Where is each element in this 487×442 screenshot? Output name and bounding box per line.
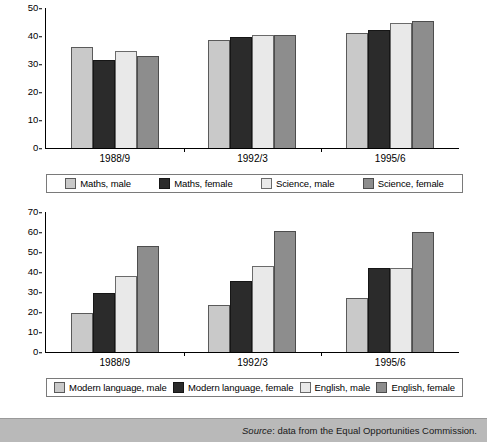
legend-label: Science, male (276, 179, 334, 189)
legend-label: English, male (315, 383, 371, 393)
y-tick-label: 0 (33, 143, 38, 153)
y-tick-label: 30 (28, 59, 38, 69)
figure-page: 50403020100 1988/91992/31995/6 Maths, ma… (0, 0, 487, 442)
y-axis-top: 50403020100 (16, 8, 42, 148)
y-tick-label: 60 (28, 227, 38, 237)
bar-group (46, 8, 184, 148)
source-body: data from the Equal Opportunities Commis… (277, 425, 477, 436)
bar (252, 35, 274, 148)
y-tick-label: 50 (28, 3, 38, 13)
bar (71, 47, 93, 148)
legend-label: Science, female (378, 179, 444, 189)
bar (346, 33, 368, 148)
legend-label: English, female (391, 383, 454, 393)
bar (208, 305, 230, 352)
legend-swatch-icon (54, 382, 65, 393)
bar (252, 266, 274, 352)
bar (137, 56, 159, 148)
legend-swatch-icon (65, 178, 76, 189)
y-tick-label: 20 (28, 307, 38, 317)
x-axis-label: 1992/3 (237, 358, 268, 368)
x-axis-labels-top: 1988/91992/31995/6 (46, 154, 459, 170)
x-axis-tick (321, 148, 322, 152)
bar (208, 40, 230, 148)
y-tick-label: 70 (28, 207, 38, 217)
bar (390, 268, 412, 352)
bar (368, 30, 390, 148)
plot-area-top (46, 8, 459, 148)
legend-swatch-icon (159, 178, 170, 189)
y-tick-label: 0 (33, 347, 38, 357)
legend-maths-science: Maths, maleMaths, femaleScience, maleSci… (46, 174, 463, 193)
bar (274, 231, 296, 352)
x-axis-label: 1988/9 (100, 358, 131, 368)
plot-area-bottom (46, 212, 459, 352)
y-tick-label: 50 (28, 247, 38, 257)
legend-swatch-icon (173, 382, 184, 393)
bar-group (184, 212, 322, 352)
legend-item: Maths, female (159, 178, 232, 189)
plot-wrap-top: 50403020100 1988/91992/31995/6 (0, 8, 473, 156)
bar (137, 246, 159, 352)
x-axis-label: 1992/3 (237, 154, 268, 164)
y-tick-label: 30 (28, 287, 38, 297)
source-note: Source: data from the Equal Opportunitie… (242, 425, 477, 436)
x-axis-tick (184, 352, 185, 356)
legend-item: English, female (376, 382, 454, 393)
bar (115, 51, 137, 148)
source-label: Source (242, 425, 272, 436)
source-bar: Source: data from the Equal Opportunitie… (0, 418, 487, 442)
x-axis-label: 1995/6 (375, 154, 406, 164)
legend-item: Modern language, male (54, 382, 167, 393)
bar (93, 293, 115, 352)
y-tick-label: 40 (28, 31, 38, 41)
legend-item: Science, male (261, 178, 334, 189)
y-tick-label: 40 (28, 267, 38, 277)
bar (346, 298, 368, 352)
y-tick-label: 10 (28, 115, 38, 125)
y-tick-label: 10 (28, 327, 38, 337)
x-axis-labels-bottom: 1988/91992/31995/6 (46, 358, 459, 374)
bar (71, 313, 93, 352)
bar (390, 23, 412, 148)
legend-item: English, male (300, 382, 371, 393)
legend-language-english: Modern language, maleModern language, fe… (46, 378, 463, 397)
legend-label: Maths, female (174, 179, 232, 189)
bar (230, 37, 252, 148)
legend-label: Maths, male (80, 179, 131, 189)
bar-group (321, 8, 459, 148)
x-axis-tick (321, 352, 322, 356)
legend-swatch-icon (261, 178, 272, 189)
bar (230, 281, 252, 352)
legend-swatch-icon (376, 382, 387, 393)
bar (274, 35, 296, 148)
x-axis-label: 1995/6 (375, 358, 406, 368)
bar-group (321, 212, 459, 352)
chart-maths-science: 50403020100 1988/91992/31995/6 Maths, ma… (0, 8, 487, 208)
legend-item: Science, female (363, 178, 444, 189)
legend-swatch-icon (363, 178, 374, 189)
legend-label: Modern language, male (69, 383, 167, 393)
y-tick-label: 20 (28, 87, 38, 97)
x-axis-label: 1988/9 (100, 154, 131, 164)
chart-language-english: 706050403020100 1988/91992/31995/6 Moder… (0, 212, 487, 412)
legend-label: Modern language, female (188, 383, 293, 393)
x-axis-line-top (45, 148, 459, 149)
x-axis-tick (184, 148, 185, 152)
plot-wrap-bottom: 706050403020100 1988/91992/31995/6 (0, 212, 473, 360)
bar (412, 21, 434, 148)
bar (368, 268, 390, 352)
legend-item: Maths, male (65, 178, 131, 189)
bar-group (46, 212, 184, 352)
bar-group (184, 8, 322, 148)
legend-swatch-icon (300, 382, 311, 393)
bar (412, 232, 434, 352)
x-axis-line-bottom (45, 352, 459, 353)
bar (93, 60, 115, 148)
bar (115, 276, 137, 352)
y-axis-bottom: 706050403020100 (16, 212, 42, 352)
legend-item: Modern language, female (173, 382, 293, 393)
